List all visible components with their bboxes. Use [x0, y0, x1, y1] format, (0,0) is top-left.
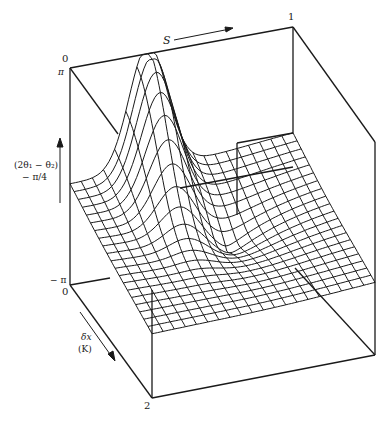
mesh-line-s	[81, 181, 163, 331]
z-axis-label-line2: − π/4	[22, 172, 47, 182]
s-axis-arrow	[174, 29, 230, 40]
box-edge-right-top	[293, 27, 375, 142]
mesh-line-dx	[99, 187, 322, 239]
box-edge-back-bottom	[70, 278, 110, 285]
mesh-line-dx	[115, 218, 338, 268]
dx-tick-zero: 0	[62, 286, 68, 297]
mesh-line-s	[70, 184, 152, 334]
surface-plot: 0 π 1 S − π 0 2 (2θ₁ − θ₂) − π/4 δx (K)	[0, 0, 392, 422]
mesh-line-dx	[74, 59, 297, 192]
z-tick-top-pi: π	[57, 67, 65, 77]
dx-axis-label-line1: δx	[81, 332, 92, 342]
box-edge-back-top	[70, 27, 293, 68]
dx-tick-two: 2	[144, 400, 150, 411]
mesh-line-dx	[70, 53, 293, 184]
mesh-line-dx	[127, 240, 350, 291]
mesh-line-dx	[91, 140, 314, 223]
mesh-line-s	[92, 178, 174, 329]
mesh-line-s	[237, 148, 319, 296]
dx-axis-label-line2: (K)	[78, 344, 92, 354]
s-axis-label: S	[163, 34, 171, 47]
mesh-line-dx	[78, 72, 301, 199]
box-edge-left-diagonal	[70, 68, 118, 134]
box-edge-front-bottom	[152, 355, 375, 398]
z-axis-label-line1: (2θ₁ − θ₂)	[14, 160, 58, 170]
box-edge-right-diagonal-lower	[295, 268, 375, 355]
s-axis-arrowhead	[225, 27, 233, 32]
s-tick-one: 1	[288, 11, 294, 22]
mesh-line-s	[260, 142, 342, 291]
mesh-line-s	[282, 136, 364, 285]
z-axis-arrowhead	[57, 138, 63, 147]
z-tick-bottom-neg-pi: − π	[50, 275, 66, 285]
wireframe-mesh	[70, 53, 375, 334]
z-tick-top-zero: 0	[62, 53, 68, 64]
